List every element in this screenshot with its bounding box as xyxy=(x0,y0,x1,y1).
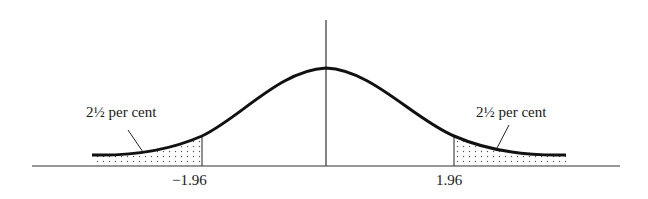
normal-distribution-diagram: 2½ per cent 2½ per cent −1.96 1.96 xyxy=(0,0,648,199)
left-tick-label: −1.96 xyxy=(172,172,207,188)
right-tail-label: 2½ per cent xyxy=(476,104,547,120)
right-leader-line xyxy=(497,125,509,148)
left-leader-line xyxy=(128,130,143,152)
right-tick-label: 1.96 xyxy=(436,172,463,188)
left-tail-label: 2½ per cent xyxy=(86,104,157,120)
